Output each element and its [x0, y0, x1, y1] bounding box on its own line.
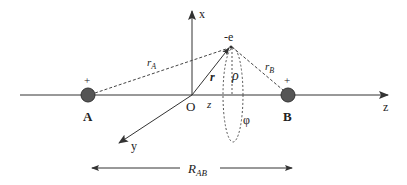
nucleus-a-charge: +	[84, 74, 90, 86]
r-vector-label: r	[210, 70, 215, 84]
h2-plus-coordinate-diagram: z x y O rA rB r ρ φ z -e + A + B RAB	[0, 0, 407, 185]
electron-point	[229, 45, 232, 48]
rho-label: ρ	[231, 68, 239, 83]
electron-label: -e	[224, 30, 233, 44]
r-a-dashed-line	[95, 48, 229, 93]
nucleus-b	[281, 88, 295, 102]
y-axis-label: y	[131, 139, 137, 153]
z-axis-label: z	[383, 100, 388, 114]
phi-label: φ	[243, 113, 250, 127]
z-coordinate-label: z	[206, 98, 212, 110]
r-b-dashed-line	[232, 47, 283, 90]
r-b-label: rB	[265, 60, 274, 75]
nucleus-a-label: A	[83, 109, 93, 124]
nucleus-b-charge: +	[284, 74, 290, 86]
separation-label: RAB	[187, 161, 207, 178]
r-a-label: rA	[147, 56, 156, 71]
y-axis	[119, 95, 192, 143]
x-axis-label: x	[199, 7, 205, 21]
nucleus-b-label: B	[283, 109, 292, 124]
origin-label: O	[186, 99, 195, 114]
nucleus-a	[81, 88, 95, 102]
